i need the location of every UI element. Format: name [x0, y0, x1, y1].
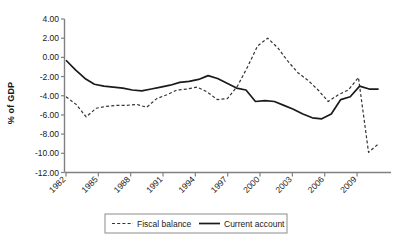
line-chart: % of GDP 4.002.000.00-2.00-4.00-6.00-8.0…: [0, 0, 397, 245]
legend-label-fiscal-balance: Fiscal balance: [137, 219, 192, 229]
y-axis-tick-label: -4.00: [40, 91, 60, 101]
y-axis-tick-label: -8.00: [40, 129, 60, 139]
y-axis-tick-label: -2.00: [40, 72, 60, 82]
y-axis-tick-label: -12.00: [35, 168, 59, 178]
legend-label-current-account: Current account: [224, 219, 285, 229]
chart-container: % of GDP 4.002.000.00-2.00-4.00-6.00-8.0…: [0, 0, 397, 245]
y-axis-tick-label: -6.00: [40, 110, 60, 120]
y-axis-title: % of GDP: [6, 82, 16, 125]
y-axis-tick-label: 2.00: [42, 33, 59, 43]
y-axis-tick-label: 4.00: [42, 14, 59, 24]
y-axis-tick-label: 0.00: [42, 52, 59, 62]
chart-background: [0, 0, 397, 245]
y-axis-title-label: % of GDP: [6, 82, 16, 125]
chart-legend: Fiscal balance Current account: [105, 214, 287, 233]
y-axis-tick-label: -10.00: [35, 148, 59, 158]
